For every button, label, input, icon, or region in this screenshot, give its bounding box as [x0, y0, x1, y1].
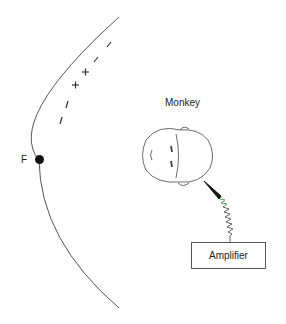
diagram-canvas [0, 0, 286, 324]
amplifier-label: Amplifier [209, 250, 248, 261]
fixation-dot [35, 155, 44, 164]
spring-wire-green [220, 199, 227, 207]
arc-marks [60, 42, 111, 124]
amplifier-box: Amplifier [191, 242, 266, 269]
fixation-label: F [21, 154, 27, 165]
spring-wire [223, 207, 233, 242]
monkey-label: Monkey [165, 97, 200, 108]
electrode [204, 181, 221, 199]
monkey-head [143, 127, 213, 185]
perimeter-arc [31, 17, 119, 308]
